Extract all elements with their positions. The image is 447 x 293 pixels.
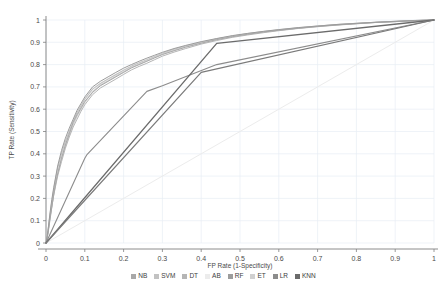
- y-tick-label: 0.8: [30, 61, 40, 68]
- x-tick-label: 1: [432, 255, 436, 262]
- legend-label: RF: [235, 272, 244, 280]
- legend-label: LR: [280, 272, 288, 280]
- x-axis-title: FP Rate (1-Specificity): [208, 262, 273, 270]
- y-tick-label: 0.5: [30, 128, 40, 135]
- legend-item-rf[interactable]: RF: [228, 272, 244, 280]
- legend-label: KNN: [302, 272, 316, 280]
- legend-label: DT: [189, 272, 198, 280]
- legend-swatch-icon: [273, 274, 278, 279]
- y-tick-label: 0.1: [30, 217, 40, 224]
- legend-item-dt[interactable]: DT: [182, 272, 198, 280]
- roc-chart: 00.10.20.30.40.50.60.70.80.91 00.10.20.3…: [0, 0, 447, 293]
- legend-swatch-icon: [250, 274, 255, 279]
- x-tick-label: 0.4: [196, 255, 206, 262]
- legend-item-nb[interactable]: NB: [131, 272, 147, 280]
- y-tick-labels: 00.10.20.30.40.50.60.70.80.91: [30, 17, 40, 247]
- y-tick-label: 0.9: [30, 39, 40, 46]
- x-tick-label: 0.5: [235, 255, 245, 262]
- legend-swatch-icon: [154, 274, 159, 279]
- legend-swatch-icon: [228, 274, 233, 279]
- x-tick-label: 0.2: [119, 255, 129, 262]
- legend-label: ET: [257, 272, 265, 280]
- legend-item-lr[interactable]: LR: [273, 272, 288, 280]
- x-tick-label: 0: [44, 255, 48, 262]
- legend-swatch-icon: [131, 274, 136, 279]
- x-tick-labels: 00.10.20.30.40.50.60.70.80.91: [44, 255, 436, 262]
- legend-label: SVM: [161, 272, 175, 280]
- roc-plot-svg: 00.10.20.30.40.50.60.70.80.91 00.10.20.3…: [0, 0, 447, 293]
- x-tick-label: 0.7: [313, 255, 323, 262]
- y-tick-label: 0: [36, 240, 40, 247]
- y-tick-label: 0.4: [30, 150, 40, 157]
- y-tick-label: 0.7: [30, 83, 40, 90]
- x-tick-label: 0.3: [158, 255, 168, 262]
- y-tick-label: 0.3: [30, 173, 40, 180]
- y-axis-title: TP Rate (Sensitivity): [8, 100, 16, 159]
- x-tick-label: 0.8: [352, 255, 362, 262]
- legend-swatch-icon: [205, 274, 210, 279]
- chart-legend: NBSVMDTABRFETLRKNN: [0, 272, 447, 280]
- axis-lines: [38, 16, 438, 252]
- legend-item-ab[interactable]: AB: [205, 272, 221, 280]
- x-tick-label: 0.1: [80, 255, 90, 262]
- legend-item-et[interactable]: ET: [250, 272, 265, 280]
- legend-label: AB: [212, 272, 221, 280]
- legend-swatch-icon: [295, 274, 300, 279]
- x-tick-label: 0.6: [274, 255, 284, 262]
- legend-swatch-icon: [182, 274, 187, 279]
- legend-item-knn[interactable]: KNN: [295, 272, 316, 280]
- legend-item-svm[interactable]: SVM: [154, 272, 175, 280]
- y-tick-label: 1: [36, 17, 40, 24]
- y-tick-label: 0.6: [30, 106, 40, 113]
- roc-chart-page: 00.10.20.30.40.50.60.70.80.91 00.10.20.3…: [0, 0, 447, 293]
- x-tick-label: 0.9: [390, 255, 400, 262]
- legend-label: NB: [138, 272, 147, 280]
- y-tick-label: 0.2: [30, 195, 40, 202]
